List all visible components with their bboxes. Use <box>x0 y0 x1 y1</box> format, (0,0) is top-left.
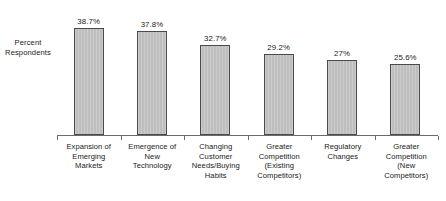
x-axis-category-labels: Expansion ofEmergingMarketsEmergence ofN… <box>57 142 438 180</box>
bar-group: 27% <box>310 8 373 135</box>
category-label-line: (Existing <box>249 161 311 171</box>
axis-tick <box>57 136 58 140</box>
category-label-line: Competitors) <box>376 171 438 181</box>
category-label: Emergence ofNewTechnology <box>121 142 185 180</box>
axis-tick <box>248 136 249 140</box>
category-label-line: Emergence of <box>122 142 184 152</box>
category-label-line: Needs/Buying <box>185 161 247 171</box>
category-label: GreaterCompetition(NewCompetitors) <box>375 142 439 180</box>
axis-tick <box>311 136 312 140</box>
bar-value-label: 38.7% <box>77 17 100 26</box>
category-label-line: Technology <box>122 161 184 171</box>
axis-tick <box>438 136 439 140</box>
bar-value-label: 25.6% <box>394 53 417 62</box>
bar-group: 37.8% <box>120 8 183 135</box>
axis-tick <box>184 136 185 140</box>
plot-area: 38.7%37.8%32.7%29.2%27%25.6% <box>57 8 437 135</box>
category-label-line: Competition <box>249 152 311 162</box>
bar-value-label: 27% <box>334 49 350 58</box>
category-label: GreaterCompetition(ExistingCompetitors) <box>248 142 312 180</box>
bar-group: 32.7% <box>184 8 247 135</box>
category-label-line: Greater <box>249 142 311 152</box>
bar-value-label: 32.7% <box>204 34 227 43</box>
bar-value-label: 37.8% <box>141 20 164 29</box>
y-axis-label-line-2: Respondents <box>5 48 51 57</box>
axis-tick <box>121 136 122 140</box>
category-label-line: Expansion of <box>58 142 120 152</box>
category-label-line: Competitors) <box>249 171 311 181</box>
y-axis-label: Percent Respondents <box>0 38 56 58</box>
category-label-line: (New <box>376 161 438 171</box>
bar-group: 29.2% <box>247 8 310 135</box>
category-label-line: Emerging <box>58 152 120 162</box>
category-label-line: Changing <box>185 142 247 152</box>
bar <box>74 28 104 135</box>
bar <box>200 45 230 135</box>
category-label-line: Markets <box>58 161 120 171</box>
bar-value-label: 29.2% <box>267 43 290 52</box>
bar <box>137 31 167 135</box>
category-label: ChangingCustomerNeeds/BuyingHabits <box>184 142 248 180</box>
y-axis-label-line-1: Percent <box>15 38 42 47</box>
bar <box>264 54 294 135</box>
category-label-line: New <box>122 152 184 162</box>
bar <box>390 64 420 135</box>
category-label-line: Changes <box>312 152 374 162</box>
axis-tick <box>375 136 376 140</box>
bar-group: 38.7% <box>57 8 120 135</box>
category-label-line: Competition <box>376 152 438 162</box>
bar-chart: Percent Respondents 38.7%37.8%32.7%29.2%… <box>0 0 446 201</box>
category-label: RegulatoryChanges <box>311 142 375 180</box>
bar-group: 25.6% <box>374 8 437 135</box>
category-label-line: Habits <box>185 171 247 181</box>
category-label-line: Regulatory <box>312 142 374 152</box>
category-label-line: Customer <box>185 152 247 162</box>
bar <box>327 60 357 135</box>
category-label-line: Greater <box>376 142 438 152</box>
category-label: Expansion ofEmergingMarkets <box>57 142 121 180</box>
bars-container: 38.7%37.8%32.7%29.2%27%25.6% <box>57 8 437 135</box>
